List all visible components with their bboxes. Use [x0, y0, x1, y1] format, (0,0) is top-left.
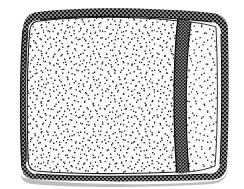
- cushion-illustration: [0, 0, 244, 189]
- illustration-canvas: Stippled cushion line-art illustration: [0, 0, 244, 189]
